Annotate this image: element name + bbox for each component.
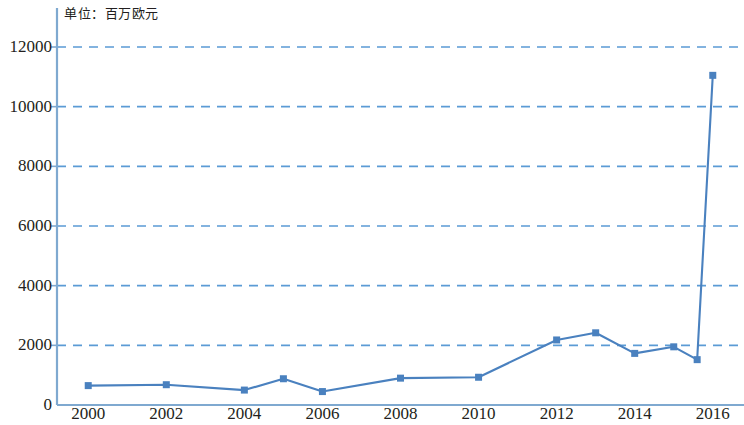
y-tick-label: 10000 <box>0 97 52 117</box>
data-point-marker <box>241 387 248 394</box>
gridlines-group <box>57 47 744 345</box>
y-tick-label: 0 <box>0 395 52 415</box>
x-tick-label: 2002 <box>149 404 183 424</box>
data-series-group <box>85 72 717 395</box>
series-line <box>88 75 713 391</box>
chart-canvas <box>0 0 744 425</box>
data-point-marker <box>475 374 482 381</box>
y-tick-label: 4000 <box>0 276 52 296</box>
data-point-marker <box>319 388 326 395</box>
x-tick-label: 2014 <box>618 404 652 424</box>
data-point-marker <box>163 381 170 388</box>
line-chart: 单位：百万欧元 020004000600080001000012000 2000… <box>0 0 744 425</box>
data-point-marker <box>670 343 677 350</box>
y-tick-label: 6000 <box>0 216 52 236</box>
y-tick-label: 8000 <box>0 156 52 176</box>
x-tick-label: 2008 <box>384 404 418 424</box>
x-tick-label: 2016 <box>696 404 730 424</box>
x-tick-label: 2012 <box>540 404 574 424</box>
data-point-marker <box>694 356 701 363</box>
x-tick-label: 2006 <box>305 404 339 424</box>
data-point-marker <box>592 329 599 336</box>
data-point-marker <box>553 336 560 343</box>
y-tick-label: 2000 <box>0 335 52 355</box>
data-point-marker <box>397 375 404 382</box>
data-point-marker <box>631 350 638 357</box>
unit-annotation: 单位：百万欧元 <box>64 3 159 22</box>
data-point-marker <box>280 375 287 382</box>
x-tick-label: 2000 <box>71 404 105 424</box>
x-tick-label: 2004 <box>227 404 261 424</box>
data-point-marker <box>85 382 92 389</box>
x-tick-label: 2010 <box>462 404 496 424</box>
y-tick-label: 12000 <box>0 37 52 57</box>
data-point-marker <box>709 72 716 79</box>
